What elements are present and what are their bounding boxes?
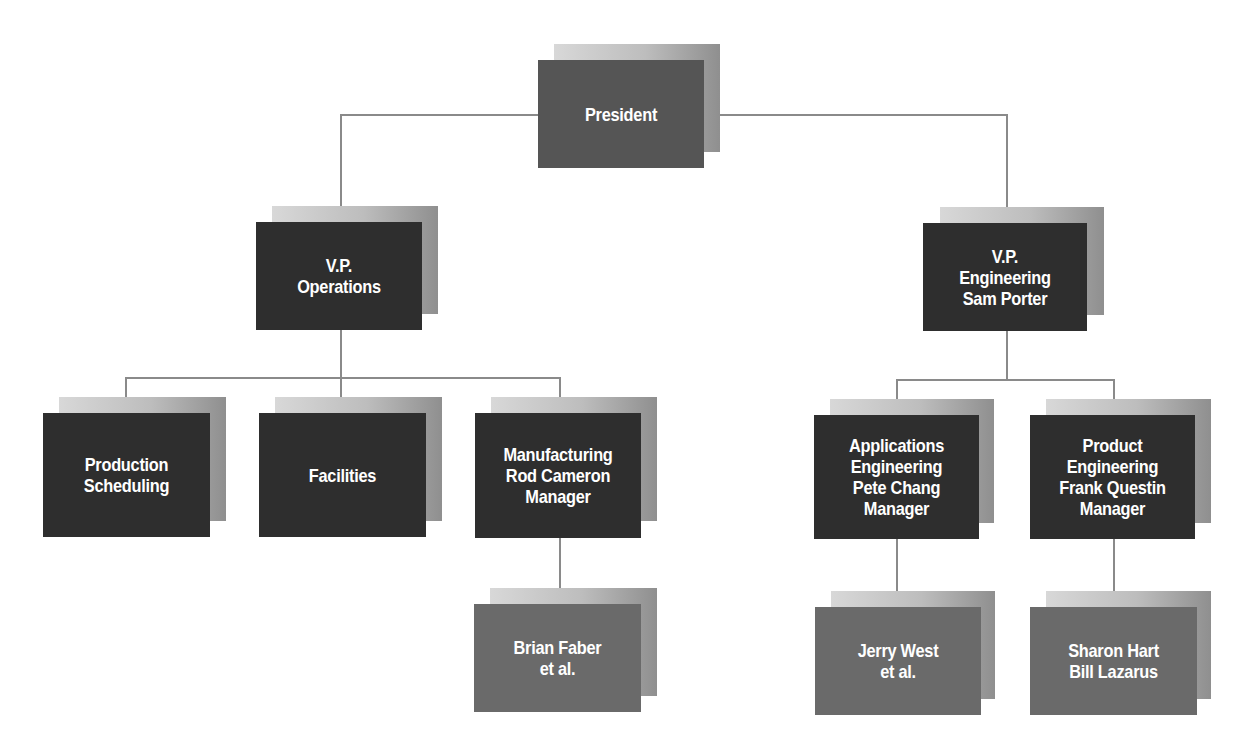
connector-vp-engineering-down: [1006, 331, 1008, 379]
node-label: Sharon Hart Bill Lazarus: [1068, 640, 1159, 682]
node-label: V.P. Engineering Sam Porter: [959, 246, 1051, 309]
node-sharon-hart-bill-lazarus[interactable]: Sharon Hart Bill Lazarus: [1030, 607, 1197, 715]
node-president[interactable]: President: [538, 60, 704, 168]
node-label: Jerry West et al.: [858, 640, 939, 682]
node-label: Production Scheduling: [84, 454, 169, 496]
node-label: V.P. Operations: [297, 255, 381, 297]
node-manufacturing[interactable]: Manufacturing Rod Cameron Manager: [475, 413, 641, 538]
node-product-engineering[interactable]: Product Engineering Frank Questin Manage…: [1030, 415, 1195, 539]
node-jerry-west[interactable]: Jerry West et al.: [815, 607, 981, 715]
node-facilities[interactable]: Facilities: [259, 413, 426, 537]
connector-operations-branch: [125, 377, 560, 379]
node-production-scheduling[interactable]: Production Scheduling: [43, 413, 210, 537]
node-label: President: [585, 104, 657, 125]
node-vp-operations[interactable]: V.P. Operations: [256, 222, 422, 330]
connector-vp-operations-down: [340, 330, 342, 377]
org-chart: President V.P. Operations V.P. Engineeri…: [0, 0, 1247, 749]
node-brian-faber[interactable]: Brian Faber et al.: [474, 604, 641, 712]
node-label: Product Engineering Frank Questin Manage…: [1059, 435, 1166, 519]
node-label: Facilities: [309, 465, 376, 486]
node-applications-engineering[interactable]: Applications Engineering Pete Chang Mana…: [814, 415, 979, 539]
node-label: Applications Engineering Pete Chang Mana…: [849, 435, 944, 519]
node-vp-engineering[interactable]: V.P. Engineering Sam Porter: [923, 223, 1087, 331]
node-label: Brian Faber et al.: [514, 637, 602, 679]
node-label: Manufacturing Rod Cameron Manager: [503, 444, 612, 507]
connector-engineering-branch: [896, 379, 1114, 381]
